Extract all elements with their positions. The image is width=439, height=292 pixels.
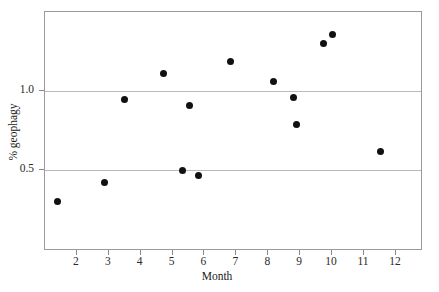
- y-axis-title-label: % geophagy: [7, 96, 19, 168]
- gridline-y: [45, 170, 421, 171]
- data-point: [186, 102, 193, 109]
- data-point: [121, 96, 128, 103]
- x-tick-label: 11: [353, 256, 373, 268]
- x-tick-label: 7: [225, 256, 245, 268]
- y-tick-mark: [39, 169, 44, 170]
- x-tick-label: 10: [321, 256, 341, 268]
- data-point: [54, 198, 61, 205]
- y-tick-label: 0.5: [0, 163, 34, 175]
- x-tick-label: 5: [162, 256, 182, 268]
- plot-area: [44, 11, 422, 250]
- data-point: [377, 148, 384, 155]
- data-point: [179, 167, 186, 174]
- x-tick-label: 6: [193, 256, 213, 268]
- x-tick-label: 2: [66, 256, 86, 268]
- scatter-plot-figure: % geophagy Month 0.51.023456789101112: [0, 0, 439, 292]
- data-point: [293, 121, 300, 128]
- data-point: [320, 40, 327, 47]
- x-tick-label: 3: [98, 256, 118, 268]
- y-tick-mark: [39, 90, 44, 91]
- data-point: [270, 78, 277, 85]
- x-tick-label: 4: [130, 256, 150, 268]
- x-tick-label: 12: [385, 256, 405, 268]
- x-tick-label: 8: [257, 256, 277, 268]
- y-tick-label: 1.0: [0, 84, 34, 96]
- data-point: [160, 70, 167, 77]
- x-axis-title: Month: [0, 270, 439, 282]
- data-point: [195, 172, 202, 179]
- data-point: [329, 31, 336, 38]
- data-point: [227, 58, 234, 65]
- x-axis-title-label: Month: [202, 270, 233, 282]
- data-point: [101, 179, 108, 186]
- data-point: [290, 94, 297, 101]
- x-tick-label: 9: [289, 256, 309, 268]
- gridline-y: [45, 91, 421, 92]
